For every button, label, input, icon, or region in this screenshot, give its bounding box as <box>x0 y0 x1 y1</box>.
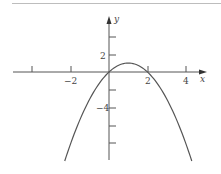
y-tick-label-2: 2 <box>100 51 106 61</box>
y-axis-arrow-icon <box>107 16 112 24</box>
x-tick-label-4: 4 <box>183 76 189 86</box>
x-axis-label: x <box>200 74 205 84</box>
x-tick-label-2: 2 <box>145 76 151 86</box>
parabola-curve <box>65 63 192 161</box>
x-tick-label-neg2: −2 <box>64 76 77 86</box>
y-axis-label: y <box>113 14 120 24</box>
y-ticks <box>109 37 116 143</box>
y-tick-label-neg4: −4 <box>96 103 110 113</box>
plot-area: −2 2 4 2 −4 x y <box>0 0 221 174</box>
